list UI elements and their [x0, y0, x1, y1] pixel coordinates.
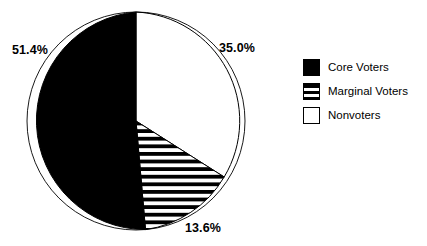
solid-black-swatch-icon	[303, 59, 320, 76]
pie-slice-core-voters	[36, 12, 145, 230]
slice-label-core-voters: 51.4%	[12, 44, 48, 57]
legend-item-label: Marginal Voters	[328, 86, 408, 98]
slice-label-nonvoters: 35.0%	[219, 42, 255, 55]
pie-svg	[0, 0, 285, 246]
horizontal-stripe-swatch-icon	[303, 83, 320, 100]
legend-item-label: Core Voters	[328, 62, 389, 74]
pie-chart-figure: 35.0% 51.4% 13.6% Core Voters Marginal V…	[0, 0, 427, 246]
legend-item-marginal-voters[interactable]: Marginal Voters	[303, 80, 427, 103]
chart-legend: Core Voters Marginal Voters Nonvoters	[303, 56, 427, 128]
legend-item-core-voters[interactable]: Core Voters	[303, 56, 427, 79]
white-outline-swatch-icon	[303, 107, 320, 124]
legend-item-nonvoters[interactable]: Nonvoters	[303, 104, 427, 127]
pie-plot-area: 35.0% 51.4% 13.6%	[0, 0, 285, 246]
legend-item-label: Nonvoters	[328, 110, 380, 122]
slice-label-marginal-voters: 13.6%	[185, 222, 221, 235]
